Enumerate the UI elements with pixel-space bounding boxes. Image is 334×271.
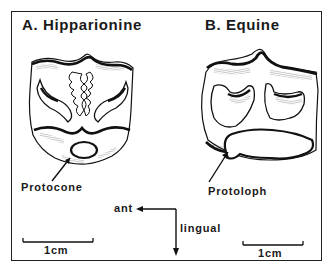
- scale-bar-a: [23, 238, 93, 242]
- scale-label-b: 1cm: [258, 247, 282, 259]
- tooth-illustrations: [0, 0, 334, 271]
- protocone-arrow: [52, 158, 70, 181]
- orientation-arrows: [136, 206, 179, 256]
- equine-tooth-drawing: [202, 49, 318, 160]
- protoloph-arrow: [209, 152, 228, 182]
- protocone-label: Protocone: [21, 181, 83, 193]
- hipparionine-tooth-drawing: [29, 54, 133, 164]
- anterior-label: ant: [114, 202, 133, 214]
- lingual-label: lingual: [180, 222, 221, 234]
- scale-label-a: 1cm: [44, 244, 68, 256]
- panel-a-title: A. Hipparionine: [22, 16, 142, 33]
- protoloph-label: Protoloph: [208, 185, 267, 197]
- scale-bar-b: [243, 241, 303, 245]
- panel-b-title: B. Equine: [205, 16, 280, 33]
